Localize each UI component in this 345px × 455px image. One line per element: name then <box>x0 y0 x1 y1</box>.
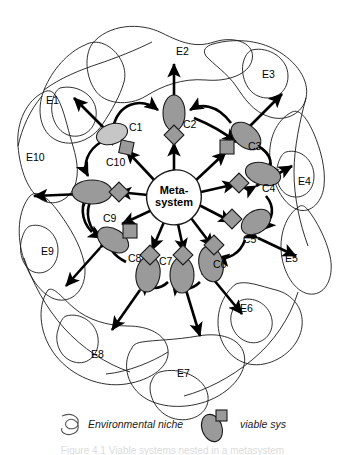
niche-outline-e2 <box>87 26 253 102</box>
niche-outline-e3 <box>204 41 306 119</box>
label-e8: E8 <box>91 348 104 360</box>
arrow-c1-c10 <box>86 142 101 176</box>
label-c7: C7 <box>159 255 173 267</box>
label-c9: C9 <box>103 212 117 224</box>
label-e7: E7 <box>177 367 190 379</box>
arrow-c7-e7 <box>186 290 200 336</box>
legend-label-viable-system: viable sys <box>240 418 287 430</box>
viable-system-body-c10 <box>72 180 112 204</box>
niche-curve-icon <box>62 414 79 434</box>
label-e6: E6 <box>240 302 253 314</box>
viable-system-attachment-c4 <box>229 173 249 193</box>
figure-canvas: Meta- system C1 C2 C3 C4 C5 C6 C7 C8 C9 … <box>0 0 345 455</box>
label-e3: E3 <box>262 68 275 80</box>
viable-system-icon-attachment <box>216 410 227 421</box>
niche-outline-e10 <box>18 91 78 203</box>
niche-connector-b <box>294 98 308 246</box>
metasystem-label-line2: system <box>155 196 193 208</box>
niche-connector-a <box>44 42 152 90</box>
viable-system-attachment-c3 <box>220 140 234 154</box>
arrow-c8-e8 <box>112 290 140 330</box>
figure-caption: Figure 4.1 Viable systems nested in a me… <box>0 446 345 455</box>
viable-system-c2[interactable] <box>163 95 185 145</box>
label-c6: C6 <box>213 258 227 270</box>
label-e2: E2 <box>176 45 189 57</box>
label-c4: C4 <box>262 182 276 194</box>
viable-system-c7[interactable] <box>170 245 194 293</box>
niche-outline-e8 <box>41 289 168 385</box>
label-c1: C1 <box>129 121 143 133</box>
label-e1: E1 <box>46 94 59 106</box>
label-e10: E10 <box>26 151 45 163</box>
viable-system-attachment-c9 <box>123 224 137 238</box>
arrow-c3-e3 <box>248 94 282 128</box>
arrow-meta-c8 <box>152 222 164 250</box>
viable-system-attachment-c10 <box>109 182 129 202</box>
metasystem-core[interactable]: Meta- system <box>147 170 202 225</box>
label-c8: C8 <box>128 252 142 264</box>
niche-outline-e4 <box>270 111 325 210</box>
niche-outline-e5 <box>281 206 331 295</box>
label-e4: E4 <box>298 175 311 187</box>
metasystem-diagram: Meta- system C1 C2 C3 C4 C5 C6 C7 C8 C9 … <box>0 0 345 455</box>
label-c2: C2 <box>183 118 197 130</box>
metasystem-label-line1: Meta- <box>160 184 189 196</box>
arrow-c9-e9 <box>66 248 100 286</box>
legend-label-environmental-niche: Environmental niche <box>88 418 183 430</box>
label-c10: C10 <box>106 156 125 168</box>
legend: Environmental niche viable sys <box>62 410 287 445</box>
arrow-c6-e6 <box>214 280 242 314</box>
arrow-meta-c3 <box>194 152 226 182</box>
label-c3: C3 <box>248 140 262 152</box>
viable-system-attachment-c1 <box>119 140 134 155</box>
viable-system-c10[interactable] <box>72 180 129 204</box>
arrow-meta-c9 <box>122 210 152 224</box>
label-e9: E9 <box>41 245 54 257</box>
viable-system-attachment-c5 <box>222 209 242 229</box>
label-e5: E5 <box>285 252 298 264</box>
label-c5: C5 <box>243 233 257 245</box>
viable-system-attachment-c2 <box>164 125 184 145</box>
figure-caption-text: Figure 4.1 Viable systems nested in a me… <box>0 446 345 455</box>
